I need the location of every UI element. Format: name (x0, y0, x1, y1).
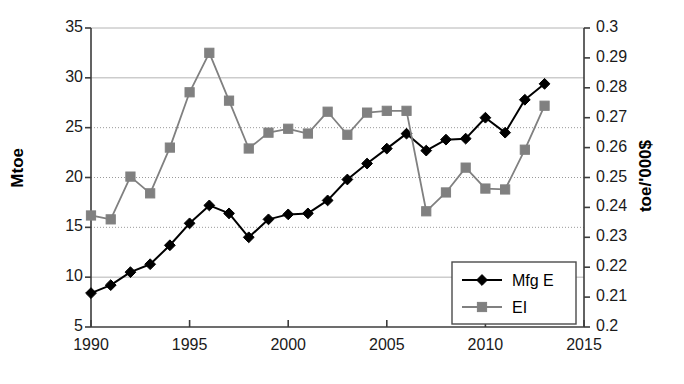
data-point-marker (165, 143, 174, 152)
plot-area: Mfg EEI (0, 0, 684, 384)
data-point-marker (244, 144, 253, 153)
series-ei (86, 48, 549, 224)
legend: Mfg EEI (452, 262, 576, 324)
legend-label: Mfg E (512, 272, 554, 289)
data-point-marker (501, 185, 510, 194)
data-point-marker (303, 129, 312, 138)
data-point-marker (382, 106, 391, 115)
legend-label: EI (512, 299, 527, 316)
data-point-marker (205, 48, 214, 57)
data-point-marker (362, 108, 371, 117)
data-point-marker (125, 267, 136, 278)
data-point-marker (402, 106, 411, 115)
data-point-marker (441, 134, 452, 145)
data-point-marker (224, 96, 233, 105)
data-point-marker (146, 189, 155, 198)
data-point-marker (323, 107, 332, 116)
data-point-marker (461, 163, 470, 172)
data-point-marker (126, 172, 135, 181)
data-point-marker (441, 188, 450, 197)
data-point-marker (303, 208, 314, 219)
data-point-marker (520, 145, 529, 154)
data-point-marker (185, 88, 194, 97)
data-point-marker (86, 211, 95, 220)
data-point-marker (105, 280, 116, 291)
legend-marker-square-icon (477, 302, 486, 311)
data-point-marker (481, 184, 490, 193)
data-point-marker (264, 128, 273, 137)
chart-figure: Mtoe toe/'000$ 5101520253035 0.20.210.22… (0, 0, 684, 384)
data-point-marker (343, 130, 352, 139)
data-point-marker (284, 124, 293, 133)
data-point-marker (540, 101, 549, 110)
data-point-marker (106, 215, 115, 224)
data-point-marker (283, 209, 294, 220)
data-point-marker (422, 207, 431, 216)
data-point-marker (86, 288, 97, 299)
